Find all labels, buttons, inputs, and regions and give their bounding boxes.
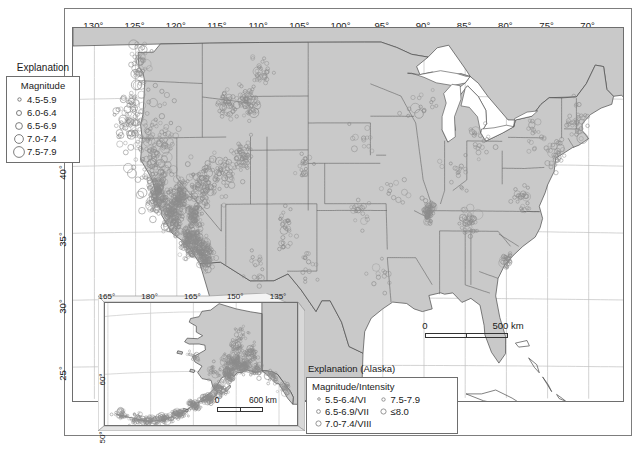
alaska-lon-tick-label: 180° xyxy=(141,292,158,301)
alaska-legend-item: 6.5-6.9/VII xyxy=(312,405,371,417)
legend-title: Explanation xyxy=(6,62,80,73)
legend-item: 4.5-5.9 xyxy=(11,93,75,106)
alaska-lon-tick-label: 150° xyxy=(227,292,244,301)
alaska-legend-item: ≤8.0 xyxy=(377,405,420,417)
legend-item-label: 4.5-5.9 xyxy=(27,94,57,105)
alaska-lon-tick-label: 165° xyxy=(99,292,116,301)
alaska-scalebar-zero-label: 0 xyxy=(215,395,220,405)
lat-tick-label: 30° xyxy=(57,300,68,314)
scalebar-length-label: 500 km xyxy=(492,320,523,331)
scalebar-main: 0 500 km xyxy=(425,320,540,338)
magnitude-circle-icon xyxy=(11,133,27,145)
alaska-lat-tick-label: 60° xyxy=(98,374,107,386)
legend-item: 6.0-6.4 xyxy=(11,106,75,119)
alaska-legend-item-label: 7.5-7.9 xyxy=(390,394,420,405)
longitude-axis-labels: 130°125°120°115°110°105°100°95°90°85°80°… xyxy=(72,8,624,27)
magnitude-circle-icon xyxy=(11,109,27,117)
alaska-magnitude-circle-icon xyxy=(312,419,325,428)
legend-item-label: 6.0-6.4 xyxy=(27,107,57,118)
alaska-legend-column-left: 5.5-6.4/VI6.5-6.9/VII7.0-7.4/VIII xyxy=(312,393,371,429)
lat-tick-label: 35° xyxy=(57,233,68,247)
legend-box: Magnitude 4.5-5.96.0-6.46.5-6.97.0-7.47.… xyxy=(6,76,80,163)
alaska-scalebar-length-label: 600 km xyxy=(249,395,277,405)
alaska-magnitude-circle-icon xyxy=(312,408,325,415)
magnitude-circle-icon xyxy=(11,121,27,131)
explanation-legend-alaska: Explanation (Alaska) Magnitude/Intensity… xyxy=(306,363,458,434)
alaska-magnitude-circle-icon xyxy=(377,396,390,403)
alaska-legend-title: Explanation (Alaska) xyxy=(308,363,458,374)
alaska-legend-item-label: 7.0-7.4/VIII xyxy=(325,418,371,429)
alaska-legend-columns: 5.5-6.4/VI6.5-6.9/VII7.0-7.4/VIII 7.5-7.… xyxy=(312,393,453,429)
legend-items: 4.5-5.96.0-6.46.5-6.97.0-7.47.5-7.9 xyxy=(11,93,75,158)
legend-item: 7.0-7.4 xyxy=(11,132,75,145)
legend-item-label: 7.0-7.4 xyxy=(27,133,57,144)
alaska-magnitude-circle-icon xyxy=(377,407,390,416)
legend-subtitle: Magnitude xyxy=(11,80,75,91)
alaska-scalebar-track xyxy=(217,407,263,412)
magnitude-circle-icon xyxy=(11,96,27,103)
scalebar-zero-label: 0 xyxy=(422,320,427,331)
magnitude-circle-icon xyxy=(11,145,27,159)
alaska-scalebar-tick xyxy=(240,407,241,412)
scalebar-track xyxy=(425,333,508,338)
alaska-legend-item: 7.0-7.4/VIII xyxy=(312,417,371,429)
legend-item: 7.5-7.9 xyxy=(11,145,75,158)
alaska-legend-column-right: 7.5-7.9≤8.0 xyxy=(377,393,420,429)
legend-item-label: 6.5-6.9 xyxy=(27,120,57,131)
alaska-lat-tick-label: 50° xyxy=(98,432,107,444)
alaska-legend-item: 5.5-6.4/VI xyxy=(312,393,371,405)
alaska-legend-item-label: 5.5-6.4/VI xyxy=(325,394,366,405)
alaska-legend-subtitle: Magnitude/Intensity xyxy=(312,381,453,392)
lat-tick-label: 25° xyxy=(57,366,68,380)
alaska-magnitude-circle-icon xyxy=(312,396,325,402)
alaska-lon-tick-label: 135° xyxy=(270,292,287,301)
scalebar-alaska: 0 600 km xyxy=(217,395,293,412)
scalebar-tick xyxy=(466,333,467,338)
alaska-legend-item: 7.5-7.9 xyxy=(377,393,420,405)
alaska-inset-panel[interactable]: 0 600 km 165°180°165°150°135° 60°50° xyxy=(98,293,305,431)
alaska-lon-tick-label: 165° xyxy=(184,292,201,301)
explanation-legend-main: Explanation Magnitude 4.5-5.96.0-6.46.5-… xyxy=(6,62,80,163)
legend-item: 6.5-6.9 xyxy=(11,119,75,132)
alaska-legend-box: Magnitude/Intensity 5.5-6.4/VI6.5-6.9/VI… xyxy=(306,377,458,434)
alaska-legend-item-label: 6.5-6.9/VII xyxy=(325,406,369,417)
legend-item-label: 7.5-7.9 xyxy=(27,146,57,157)
alaska-legend-item-label: ≤8.0 xyxy=(390,406,408,417)
alaska-map-frame: 0 600 km xyxy=(104,302,298,426)
lat-tick-label: 40° xyxy=(57,166,68,180)
